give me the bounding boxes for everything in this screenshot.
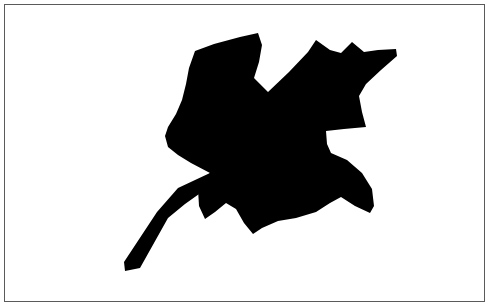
leaf-silhouette-graphic — [0, 0, 492, 308]
figure-canvas — [0, 0, 492, 308]
leaf-stem-shape — [124, 173, 216, 271]
leaf-blade-shape — [165, 33, 397, 234]
silhouette-group — [124, 33, 397, 271]
